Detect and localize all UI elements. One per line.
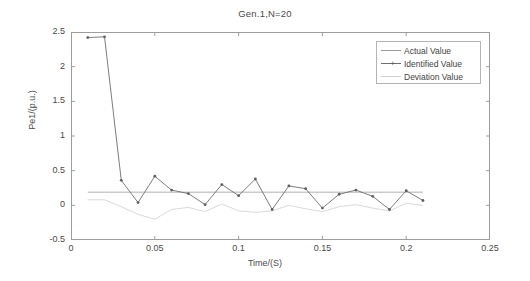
- data-point-marker: [170, 189, 173, 192]
- data-point-marker: [187, 192, 190, 195]
- x-axis-tick-label: 0.1: [219, 243, 259, 253]
- legend-line-sample-actual: [380, 45, 402, 57]
- legend-label-identified: Identified Value: [402, 59, 462, 69]
- x-axis-tick-label: 0.25: [470, 243, 510, 253]
- data-point-marker: [137, 201, 140, 204]
- legend-label-deviation: Deviation Value: [402, 72, 463, 82]
- y-axis-tick-label: 2: [23, 61, 65, 71]
- data-point-marker: [271, 208, 274, 211]
- data-point-marker: [405, 189, 408, 192]
- data-point-marker: [103, 35, 106, 38]
- legend-item-actual-value: Actual Value: [377, 44, 480, 57]
- data-point-marker: [338, 193, 341, 196]
- series-line-identified-value: [88, 37, 423, 210]
- chart-title: Gen.1,N=20: [0, 8, 530, 19]
- data-point-marker: [321, 207, 324, 210]
- legend-marker-dot-icon: +: [389, 60, 396, 67]
- x-axis-tick-label: 0: [51, 243, 91, 253]
- legend-line-sample-deviation: [380, 71, 402, 83]
- data-point-marker: [304, 187, 307, 190]
- y-axis-tick-label: 1: [23, 130, 65, 140]
- y-axis-tick-label: 0.5: [23, 165, 65, 175]
- data-point-marker: [422, 199, 425, 202]
- data-point-marker: [388, 208, 391, 211]
- data-point-marker: [86, 36, 89, 39]
- x-axis-label: Time/(S): [0, 258, 530, 268]
- data-point-marker: [287, 185, 290, 188]
- legend-line-sample-identified: +: [380, 58, 402, 70]
- legend-item-deviation-value: Deviation Value: [377, 70, 480, 83]
- y-axis-tick-label: 0: [23, 199, 65, 209]
- data-point-marker: [237, 194, 240, 197]
- data-point-marker: [371, 195, 374, 198]
- chart-figure: Gen.1,N=20 Pe1/(p.u.) Time/(S) -0.500.51…: [0, 0, 530, 281]
- data-point-marker: [355, 189, 358, 192]
- data-point-marker: [254, 178, 257, 181]
- y-axis-tick-label: 1.5: [23, 95, 65, 105]
- data-point-marker: [120, 179, 123, 182]
- x-axis-tick-label: 0.05: [135, 243, 175, 253]
- legend: Actual Value + Identified Value Deviatio…: [376, 41, 481, 84]
- data-point-marker: [220, 183, 223, 186]
- legend-label-actual: Actual Value: [402, 46, 451, 56]
- y-axis-tick-label: 2.5: [23, 26, 65, 36]
- data-point-marker: [153, 175, 156, 178]
- data-point-marker: [204, 203, 207, 206]
- x-axis-tick-label: 0.2: [386, 243, 426, 253]
- x-axis-tick-label: 0.15: [302, 243, 342, 253]
- legend-item-identified-value: + Identified Value: [377, 57, 480, 70]
